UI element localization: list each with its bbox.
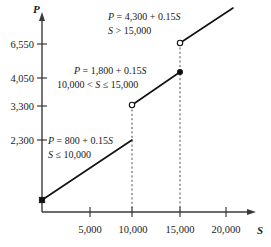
x-ticks-group: 5,000 10,000 15,000 20,000 xyxy=(78,207,240,235)
annotation-upper-line2: S > 15,000 xyxy=(108,25,151,36)
annotation-middle-line1: P = 1,800 + 0.15S xyxy=(73,65,146,76)
open-point-15000-6550 xyxy=(177,40,182,45)
data-segments-group xyxy=(42,8,233,200)
data-segment-2 xyxy=(132,72,180,105)
open-point-10000-3300 xyxy=(129,102,134,107)
y-tick-label-2300: 2,300 xyxy=(10,135,34,146)
y-tick-label-3300: 3,300 xyxy=(10,101,34,112)
chart-figure: P S 6,550 4,050 3,300 2,300 5,000 10,000… xyxy=(0,0,271,247)
annotation-lower-line1: P = 800 + 0.15S xyxy=(47,135,113,146)
y-tick-label-6550: 6,550 xyxy=(10,39,34,50)
piecewise-line-chart: P S 6,550 4,050 3,300 2,300 5,000 10,000… xyxy=(0,0,271,247)
x-axis-label: S xyxy=(257,224,263,236)
annotation-upper-line1: P = 4,300 + 0.15S xyxy=(107,11,180,22)
y-tick-label-4050: 4,050 xyxy=(10,73,34,84)
annotation-upper: P = 4,300 + 0.15S S > 15,000 xyxy=(107,11,180,36)
x-tick-label-15000: 15,000 xyxy=(166,224,195,235)
annotation-lower: P = 800 + 0.15S S ≤ 10,000 xyxy=(47,135,113,160)
x-axis-arrowhead xyxy=(247,209,256,215)
x-tick-label-20000: 20,000 xyxy=(212,224,241,235)
data-segment-3 xyxy=(180,8,233,43)
x-tick-label-5000: 5,000 xyxy=(78,224,102,235)
closed-point-origin xyxy=(39,197,44,202)
y-axis-label: P xyxy=(33,3,40,15)
x-tick-label-10000: 10,000 xyxy=(119,224,148,235)
closed-point-15000-4050 xyxy=(177,69,182,74)
annotation-lower-line2: S ≤ 10,000 xyxy=(48,149,91,160)
annotation-middle-line2: 10,000 < S ≤ 15,000 xyxy=(57,79,138,90)
axes-group xyxy=(39,12,256,215)
y-axis-arrowhead xyxy=(39,12,45,21)
annotation-middle: P = 1,800 + 0.15S 10,000 < S ≤ 15,000 xyxy=(57,65,146,90)
